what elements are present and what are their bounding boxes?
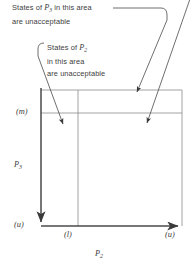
- tick-label-m: (m): [16, 107, 28, 116]
- y-axis-label: P3: [14, 160, 22, 170]
- figure-drawing: [0, 0, 196, 269]
- plot-boundary: [41, 90, 182, 226]
- annotation-p2-line2: in this area: [47, 56, 105, 68]
- annotation-p3-text: States of P3 in this area are unacceptab…: [12, 2, 92, 28]
- annotation-p2-line3: are unacceptable: [47, 68, 105, 80]
- annotation-p3-line2: are unacceptable: [12, 16, 92, 28]
- x-axis-label: P2: [95, 249, 103, 259]
- leader-line-p3: [113, 8, 167, 92]
- variable-p3: P3: [44, 3, 52, 12]
- tick-label-u-origin: (u): [14, 220, 24, 229]
- leader-line-p3-secondary: [147, 0, 191, 123]
- annotation-p3-line1: States of P3 in this area: [12, 2, 92, 16]
- annotation-p2-text: States of P2 in this area are unacceptab…: [47, 42, 105, 79]
- annotation-p2-line1: States of P2: [47, 42, 105, 56]
- variable-p2: P2: [79, 43, 87, 52]
- tick-label-u-right: (u): [165, 230, 175, 239]
- tick-label-l: (l): [64, 230, 72, 239]
- figure-container: States of P3 in this area are unacceptab…: [0, 0, 196, 269]
